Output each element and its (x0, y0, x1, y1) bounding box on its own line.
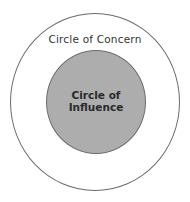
circle-of-concern-label: Circle of Concern (0, 33, 190, 45)
circle-of-influence-label-line1: Circle of (46, 89, 146, 101)
circle-of-influence-label: Circle of Influence (46, 89, 146, 113)
circle-of-influence-label-line2: Influence (46, 101, 146, 113)
